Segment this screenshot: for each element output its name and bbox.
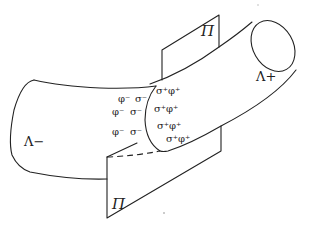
svg-text:φ⁺: φ⁺ <box>168 85 180 96</box>
right-region-label: Λ+ <box>255 69 276 84</box>
svg-text:σ⁻: σ⁻ <box>130 126 142 137</box>
svg-text:σ⁻: σ⁻ <box>135 93 147 104</box>
plane-top-label: Π <box>200 22 215 40</box>
svg-text:σ⁺: σ⁺ <box>166 133 178 144</box>
right-charges: σ⁺ φ⁺ σ⁺ φ⁺ σ⁺ φ⁺ σ⁺ φ⁺ <box>154 85 190 144</box>
left-charges: φ⁻ σ⁻ φ⁻ σ⁻ φ⁻ σ⁻ <box>112 93 147 137</box>
svg-text:φ⁻: φ⁻ <box>118 93 130 104</box>
svg-text:φ⁺: φ⁺ <box>166 103 178 114</box>
svg-text:σ⁻: σ⁻ <box>130 106 142 117</box>
svg-text:σ⁺: σ⁺ <box>157 120 169 131</box>
svg-text:σ⁺: σ⁺ <box>154 103 166 114</box>
left-region-label: Λ− <box>23 134 44 149</box>
svg-text:φ⁻: φ⁻ <box>112 106 124 117</box>
plane-bottom-label: Π <box>111 195 126 213</box>
svg-text:σ⁺: σ⁺ <box>156 85 168 96</box>
tube-plane-diagram: Π Π Λ− Λ+ φ⁻ σ⁻ φ⁻ σ⁻ φ⁻ σ⁻ σ⁺ φ⁺ σ⁺ φ⁺ … <box>0 0 312 228</box>
svg-text:φ⁺: φ⁺ <box>178 133 190 144</box>
svg-text:φ⁺: φ⁺ <box>169 120 181 131</box>
svg-text:φ⁻: φ⁻ <box>112 126 124 137</box>
